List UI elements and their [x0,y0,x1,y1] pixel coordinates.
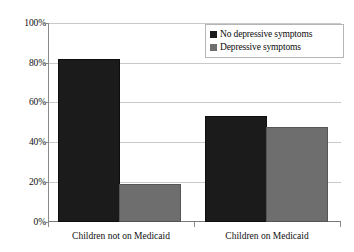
y-axis-tick-label: 60% [0,97,46,107]
y-axis-tick-label: 40% [0,137,46,147]
y-axis-tick-label: 80% [0,58,46,68]
legend: No depressive symptoms Depressive sympto… [205,24,344,58]
legend-entry-depressive-symptoms: Depressive symptoms [210,41,339,54]
bar-chart: 100% 80% 60% 40% 20% 0% Children not on … [0,0,354,252]
y-axis-tick-label: 100% [0,18,46,28]
x-axis-tick-mark [340,222,341,227]
legend-entry-no-depressive-symptoms: No depressive symptoms [210,28,339,41]
y-axis-tick-label: 20% [0,177,46,187]
bar-depressive-symptoms-children-not-on-medicaid [119,184,181,222]
legend-entry-label: No depressive symptoms [220,29,312,40]
bar-no-depressive-symptoms-children-on-medicaid [205,116,267,222]
x-axis-label-children-not-on-medicaid: Children not on Medicaid [48,231,194,242]
legend-swatch-icon [210,31,217,38]
x-axis-tick-mark [194,222,195,227]
legend-entry-label: Depressive symptoms [220,42,301,53]
x-axis-label-children-on-medicaid: Children on Medicaid [194,231,340,242]
legend-swatch-icon [210,44,217,51]
bar-no-depressive-symptoms-children-not-on-medicaid [58,59,120,222]
bar-depressive-symptoms-children-on-medicaid [266,127,328,222]
y-axis-tick-label: 0% [0,217,46,227]
x-axis-tick-mark [48,222,49,227]
